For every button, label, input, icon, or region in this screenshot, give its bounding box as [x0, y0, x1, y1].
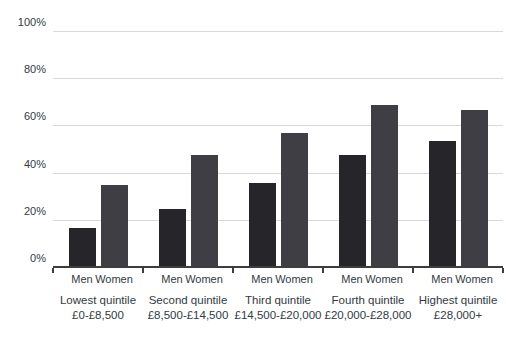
series-label-men: Men: [69, 273, 96, 286]
category-labels: MenWomenThird quintile£14,500-£20,000: [233, 273, 323, 323]
bar-women: [461, 110, 488, 268]
category-range: £28,000+: [413, 308, 503, 323]
y-axis: 0%20%40%60%80%100%: [0, 32, 46, 268]
series-label-men: Men: [249, 273, 276, 286]
y-axis-label: 40%: [24, 159, 46, 170]
category-range: £0-£8,500: [53, 308, 143, 323]
series-labels: MenWomen: [233, 273, 323, 286]
plot-area: [53, 32, 503, 268]
tick-mark: [142, 268, 144, 273]
series-label-men: Men: [339, 273, 366, 286]
series-labels: MenWomen: [413, 273, 503, 286]
y-axis-label: 100%: [18, 17, 46, 28]
y-axis-label: 0%: [30, 253, 46, 264]
bar-groups: [53, 32, 503, 268]
series-label-women: Women: [281, 273, 308, 286]
y-axis-label: 80%: [24, 64, 46, 75]
bar-men: [429, 141, 456, 268]
bar-men: [69, 228, 96, 268]
series-label-women: Women: [191, 273, 218, 286]
category-labels: MenWomenLowest quintile£0-£8,500: [53, 273, 143, 323]
bar-men: [159, 209, 186, 268]
bar-group: [323, 32, 413, 268]
category-range: £20,000-£28,000: [323, 308, 413, 323]
series-labels: MenWomen: [53, 273, 143, 286]
series-labels: MenWomen: [143, 273, 233, 286]
bar-women: [101, 185, 128, 268]
bar-group: [143, 32, 233, 268]
category-range: £8,500-£14,500: [143, 308, 233, 323]
y-axis-label: 20%: [24, 206, 46, 217]
series-label-women: Women: [461, 273, 488, 286]
series-label-women: Women: [101, 273, 128, 286]
category-labels: MenWomenFourth quintile£20,000-£28,000: [323, 273, 413, 323]
category-title: Highest quintile: [413, 293, 503, 308]
bar-women: [281, 133, 308, 268]
y-axis-label: 60%: [24, 111, 46, 122]
bar-group: [413, 32, 503, 268]
category-title: Lowest quintile: [53, 293, 143, 308]
tick-mark: [52, 268, 54, 273]
category-title: Fourth quintile: [323, 293, 413, 308]
category-range: £14,500-£20,000: [233, 308, 323, 323]
bar-women: [191, 155, 218, 268]
bar-group: [53, 32, 143, 268]
bar-men: [249, 183, 276, 268]
series-labels: MenWomen: [323, 273, 413, 286]
category-title: Second quintile: [143, 293, 233, 308]
tick-mark: [322, 268, 324, 273]
category-title: Third quintile: [233, 293, 323, 308]
bar-women: [371, 105, 398, 268]
tick-mark: [502, 268, 504, 273]
series-label-men: Men: [159, 273, 186, 286]
tick-mark: [412, 268, 414, 273]
category-labels: MenWomenSecond quintile£8,500-£14,500: [143, 273, 233, 323]
bar-group: [233, 32, 323, 268]
bar-men: [339, 155, 366, 268]
x-axis-line: [53, 266, 503, 268]
series-label-men: Men: [429, 273, 456, 286]
bar-chart: 0%20%40%60%80%100% MenWomenLowest quinti…: [0, 0, 506, 339]
category-labels: MenWomenHighest quintile£28,000+: [413, 273, 503, 323]
tick-mark: [232, 268, 234, 273]
x-axis-labels: MenWomenLowest quintile£0-£8,500MenWomen…: [53, 273, 503, 323]
series-label-women: Women: [371, 273, 398, 286]
